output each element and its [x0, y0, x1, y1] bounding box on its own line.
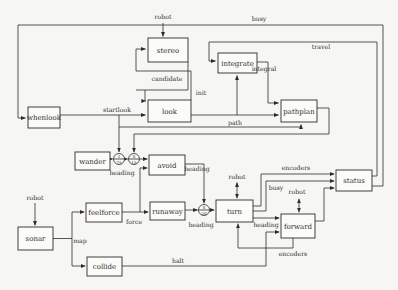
label-heading-runaway: heading [188, 221, 213, 229]
edge-forward-to-status [315, 188, 334, 221]
label-robot-forward: robot [289, 188, 306, 195]
node-wander-label: wander [79, 158, 106, 166]
node-stereo: stereo [148, 38, 188, 62]
label-heading-wander: heading [109, 169, 134, 177]
label-busy-top: busy [252, 15, 267, 23]
label-path: path [228, 119, 242, 127]
diagram-canvas: I 75 S 15 S 20 whenlook stereo look inte… [0, 0, 398, 290]
label-startlook: startlook [103, 106, 131, 113]
label-robot-sonar: robot [27, 194, 44, 201]
node-whenlook-label: whenlook [27, 114, 62, 122]
node-turn: turn [216, 200, 253, 222]
label-map: map [73, 237, 87, 245]
node-collide-label: collide [93, 263, 116, 271]
node-integrate-label: integrate [221, 60, 254, 68]
suppressor-letter: S [133, 154, 136, 159]
node-forward-label: forward [284, 223, 313, 231]
node-feelforce: feelforce [86, 203, 122, 222]
node-status-label: status [343, 177, 365, 185]
suppressor-node-avoid: S 15 [129, 154, 140, 165]
suppressor-letter: S [203, 205, 206, 210]
node-feelforce-label: feelforce [88, 209, 119, 217]
label-robot-stereo: robot [155, 13, 172, 20]
node-avoid: avoid [149, 155, 185, 175]
node-runaway-label: runaway [152, 208, 183, 216]
node-collide: collide [87, 257, 122, 276]
edge-stereo-to-look [145, 90, 146, 101]
node-look: look [148, 100, 191, 122]
node-pathplan-label: pathplan [283, 108, 315, 116]
node-avoid-label: avoid [157, 162, 177, 170]
inhibitor-node-wander: I 75 [114, 154, 125, 165]
node-look-label: look [162, 108, 178, 116]
label-candidate: candidate [152, 75, 183, 82]
label-integral: integral [252, 65, 277, 73]
label-heading-turn: heading [253, 221, 278, 229]
node-wander: wander [75, 152, 110, 170]
label-init: init [196, 89, 207, 96]
node-turn-label: turn [227, 208, 243, 216]
edge-startlook-branch-to-pathplan [119, 125, 301, 128]
edge-turn-busy-to-status [253, 181, 334, 211]
node-pathplan: pathplan [281, 100, 317, 122]
suppressor-time: 15 [131, 160, 137, 165]
subsumption-architecture-diagram: I 75 S 15 S 20 whenlook stereo look inte… [0, 0, 398, 290]
label-halt: halt [172, 257, 185, 264]
node-sonar: sonar [18, 227, 53, 250]
label-heading-avoid: heading [184, 165, 209, 173]
node-sonar-label: sonar [26, 235, 46, 243]
edge-collide-halt-to-forward [122, 232, 279, 266]
label-robot-turn: robot [229, 173, 246, 180]
node-stereo-label: stereo [157, 47, 179, 55]
label-force: force [126, 218, 142, 225]
label-encoders-top: encoders [282, 164, 311, 171]
label-encoders-bottom: encoders [279, 250, 308, 257]
label-busy-turn: busy [269, 184, 284, 192]
node-forward: forward [281, 214, 315, 238]
node-runaway: runaway [150, 202, 185, 220]
label-travel: travel [312, 43, 330, 50]
node-status: status [336, 170, 372, 191]
suppressor-time: 20 [201, 211, 207, 216]
node-whenlook: whenlook [27, 107, 62, 128]
suppressor-node-turn: S 20 [199, 205, 210, 216]
inhibitor-time: 75 [116, 160, 122, 165]
edge-force-branch-to-avoid [140, 168, 147, 212]
